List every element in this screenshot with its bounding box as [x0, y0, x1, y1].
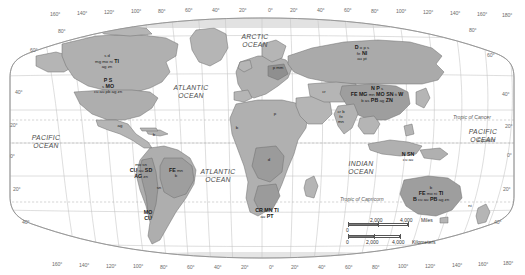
ocean-line-1: PACIFIC	[32, 134, 60, 141]
lat-label-left: 0°	[10, 153, 15, 159]
resource-row: CU	[138, 216, 158, 222]
resource-row: cu au pb ag zn	[82, 90, 134, 95]
resource-row: b	[148, 133, 160, 138]
resource-symbol: MG	[357, 91, 367, 97]
resource-label-india: cr bfemn	[332, 110, 350, 125]
resource-symbol: PB	[369, 97, 378, 103]
lon-label-top: 120°	[423, 9, 433, 15]
lon-label-top: 100°	[131, 8, 141, 14]
lon-label-top: 20°	[290, 7, 298, 13]
lon-label-top: 80°	[371, 8, 379, 14]
lon-label-top: 160°	[50, 11, 60, 17]
resource-label-indonesia: N SNcu au	[396, 152, 420, 163]
resource-label-united-states: P Ss MOcu au pb ag zn	[82, 78, 134, 95]
lon-label-bottom: 60°	[345, 264, 353, 270]
resource-label-west-africa: b	[232, 126, 242, 131]
lon-label-top: 80°	[158, 8, 166, 14]
lon-label-top: 100°	[396, 8, 406, 14]
lon-label-bottom: 120°	[425, 263, 435, 269]
resource-symbol: d	[106, 53, 110, 58]
ocean-label-atlantic-north: ATLANTIC OCEAN	[162, 84, 220, 99]
scale-km-zero: 0	[346, 239, 349, 245]
lon-label-top: 20°	[239, 7, 247, 13]
lon-label-bottom: 160°	[478, 261, 488, 267]
resource-label-central-asia: cr	[318, 90, 330, 95]
resource-label-europe: p mm	[268, 66, 288, 71]
resource-row: b	[160, 174, 192, 179]
scale-bar: 0 2,000 4,000 Miles 0 2,000 4,000 Kilome…	[348, 222, 468, 243]
ocean-label-indian: INDIAN OCEAN	[336, 160, 386, 175]
resource-symbol: AG	[134, 173, 142, 179]
scale-miles-seg-2	[378, 223, 408, 226]
lon-label-top: 60°	[185, 7, 193, 13]
equator-label: Equator	[477, 137, 495, 143]
resource-symbol: sn	[157, 185, 162, 190]
lon-label-bottom: 100°	[133, 263, 143, 269]
resource-symbol: zn	[107, 64, 113, 69]
lat-label-right: 80°	[469, 27, 477, 33]
philippines	[404, 124, 414, 136]
resource-symbol: zn	[116, 89, 122, 94]
scale-km-end: 4,000	[392, 239, 405, 245]
scale-km-row: 0 2,000 4,000 Kilometers	[348, 234, 468, 243]
lon-label-bottom: 0°	[269, 264, 274, 270]
ocean-line-1: INDIAN	[349, 160, 374, 167]
tropic-of-capricorn-label: Tropic of Capricorn	[340, 196, 384, 202]
ocean-label-pacific-west: PACIFIC OCEAN	[20, 134, 72, 149]
lon-label-bottom: 100°	[398, 263, 408, 269]
lat-label-left: 40°	[15, 89, 23, 95]
resource-symbol: zn	[443, 197, 449, 202]
lon-label-top: 40°	[317, 7, 325, 13]
lon-label-top: 140°	[450, 10, 460, 16]
lon-label-bottom: 140°	[79, 262, 89, 268]
ocean-line-1: ATLANTIC	[201, 168, 236, 175]
ocean-line-1: ARCTIC	[241, 33, 268, 40]
resource-symbol: b	[175, 173, 177, 178]
lat-label-right: 40°	[494, 219, 502, 225]
resource-row: p	[270, 112, 280, 117]
lon-label-bottom: 180°	[503, 260, 513, 266]
resource-symbol: pt	[362, 56, 367, 61]
resource-symbol: PT	[265, 213, 273, 219]
lat-label-right: 40°	[502, 91, 510, 97]
ocean-line-2: OCEAN	[178, 92, 204, 99]
lon-label-top: 120°	[104, 9, 114, 15]
resource-symbol: mm	[275, 65, 283, 70]
scale-miles-end: 4,000	[400, 217, 413, 223]
resource-row: cu au	[396, 158, 420, 163]
lat-label-right: 0°	[507, 152, 512, 158]
resource-row: cr	[318, 90, 330, 95]
resource-label-australia: bFE mo ni TIB cu au PB ag zn	[400, 186, 462, 203]
resource-symbol: au	[407, 157, 413, 162]
lon-label-bottom: 140°	[452, 262, 462, 268]
lon-label-bottom: 40°	[318, 264, 326, 270]
ocean-line-2: OCEAN	[348, 168, 374, 175]
lon-label-bottom: 40°	[214, 264, 222, 270]
lat-label-left: 20°	[10, 122, 18, 128]
resource-symbol: mn	[338, 119, 344, 124]
resource-row: p mm	[268, 66, 288, 71]
resource-symbol: ni	[468, 203, 471, 208]
ocean-line-2: OCEAN	[33, 142, 59, 149]
lon-label-top: 180°	[502, 12, 512, 18]
scale-km-unit: Kilometers	[412, 239, 436, 245]
lat-label-right: 20°	[503, 186, 511, 192]
resource-symbol: W	[397, 91, 403, 97]
resource-label-chile-argentina: MOCU	[138, 210, 158, 222]
resource-label-bolivia: sn	[152, 186, 166, 191]
lon-label-bottom: 80°	[160, 264, 168, 270]
ocean-label-arctic: ARCTIC OCEAN	[232, 33, 278, 48]
resource-row: b	[232, 126, 242, 131]
resource-symbol: PB	[428, 196, 437, 202]
resource-row: au pt	[342, 57, 382, 62]
ocean-label-atlantic-south: ATLANTIC OCEAN	[190, 168, 246, 183]
lon-label-top: 40°	[212, 7, 220, 13]
resource-symbol: d	[268, 157, 270, 162]
lon-label-bottom: 80°	[372, 264, 380, 270]
resource-symbol: zn	[142, 174, 148, 179]
scale-km-seg-1	[348, 235, 374, 238]
resource-label-central-africa: d	[264, 158, 274, 163]
resource-label-new-zealand: ni	[464, 204, 476, 209]
resource-symbol: p	[274, 111, 276, 116]
resource-symbol: SD	[143, 167, 152, 173]
